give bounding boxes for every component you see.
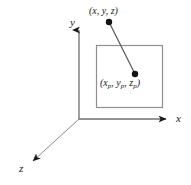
z-axis-line (33, 119, 79, 161)
z-axis-label: z (19, 163, 23, 174)
world-point-close-paren: ) (115, 5, 118, 16)
diagram-canvas (0, 0, 191, 185)
projection-ray (109, 22, 135, 74)
world-point-label: (x, y, z) (89, 6, 118, 16)
y-axis-label: y (70, 17, 75, 28)
proj-point-x-subscript: p (108, 82, 112, 90)
world-point-dot (106, 19, 112, 25)
proj-point-close-paren: ) (137, 77, 140, 88)
x-axis-label: x (176, 113, 181, 124)
proj-point-y-subscript: p (121, 82, 125, 90)
proj-point-z-subscript: p (133, 82, 137, 90)
projection-diagram: y x z (x, y, z) (xp, yp, zp) (0, 0, 191, 185)
projected-point-label: (xp, yp, zp) (100, 78, 140, 88)
